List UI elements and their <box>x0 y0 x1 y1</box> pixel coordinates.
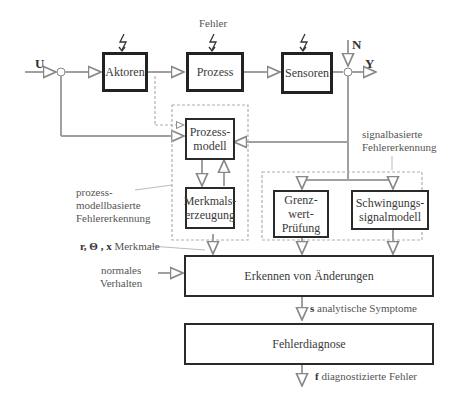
fault-lightning-icons <box>119 34 307 51</box>
faults-label: f diagnostizierte Fehler <box>315 370 417 383</box>
block-fault-diagnosis: Fehlerdiagnose <box>184 323 434 365</box>
normal-behavior-label: normales Verhalten <box>100 264 142 290</box>
block-sensors: Sensoren <box>281 52 333 94</box>
block-limit-check: Grenz- wert- Prüfung <box>273 190 329 238</box>
block-actuators: Aktoren <box>102 52 148 92</box>
block-limit-check-label: Grenz- wert- Prüfung <box>282 193 321 235</box>
block-feature-generation-label: Merkmals- erzeugung <box>184 194 237 222</box>
block-process-model-label: Prozess- modell <box>190 125 231 153</box>
noise-signal-label: N <box>352 38 361 51</box>
output-signal-label: Y <box>365 57 374 70</box>
symptoms-symbol: s <box>310 302 314 314</box>
features-symbols: r, Θ , x <box>80 240 112 252</box>
block-sensors-label: Sensoren <box>285 66 329 80</box>
block-process-label: Prozess <box>197 65 234 79</box>
faults-text: diagnostizierte Fehler <box>321 370 417 382</box>
block-process-model: Prozess- modell <box>185 118 235 160</box>
fault-label: Fehler <box>199 17 227 30</box>
block-actuators-label: Aktoren <box>105 65 144 79</box>
features-text: Merkmale <box>114 240 159 252</box>
block-change-detection: Erkennen von Änderungen <box>184 255 434 297</box>
block-vibration-model: Schwingungs- signalmodell <box>351 190 429 230</box>
signal-based-group-label: signalbasierte Fehlererkennung <box>362 128 437 154</box>
block-fault-diagnosis-label: Fehlerdiagnose <box>272 337 345 351</box>
block-process: Prozess <box>186 52 244 92</box>
block-change-detection-label: Erkennen von Änderungen <box>244 269 373 283</box>
symptoms-label: s analytische Symptome <box>310 302 417 315</box>
block-vibration-model-label: Schwingungs- signalmodell <box>356 196 425 224</box>
faults-symbol: f <box>315 370 319 382</box>
input-signal-label: U <box>35 57 44 70</box>
model-based-group-label: prozess- modellbasierte Fehlererkennung <box>76 186 151 225</box>
symptoms-text: analytische Symptome <box>317 302 417 314</box>
features-label: r, Θ , x Merkmale <box>80 240 160 253</box>
block-feature-generation: Merkmals- erzeugung <box>185 187 235 229</box>
